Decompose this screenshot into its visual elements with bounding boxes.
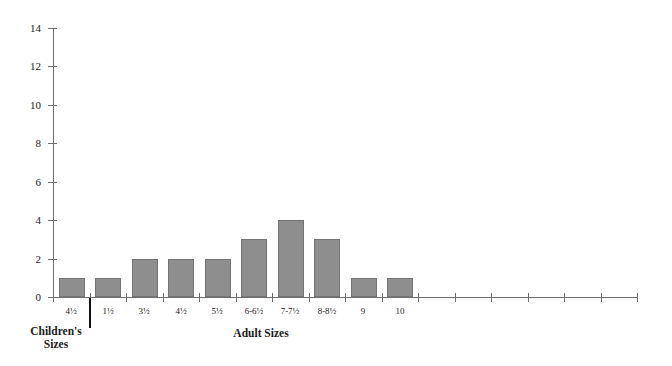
y-tick-14 — [48, 28, 57, 29]
x-category-label-10: 10 — [378, 306, 422, 316]
y-tick-label-4: 4 — [10, 214, 41, 226]
x-tick-2 — [126, 293, 127, 302]
x-tick-11 — [455, 293, 456, 302]
bar-1½ — [95, 278, 121, 297]
bar-7-7½ — [278, 220, 304, 297]
x-tick-9 — [382, 293, 383, 302]
y-tick-label-2: 2 — [10, 253, 41, 265]
x-tick-14 — [564, 293, 565, 302]
x-tick-4 — [199, 293, 200, 302]
y-tick-12 — [48, 66, 57, 67]
x-tick-5 — [236, 293, 237, 302]
x-tick-3 — [163, 293, 164, 302]
y-tick-label-6: 6 — [10, 176, 41, 188]
y-tick-8 — [48, 143, 57, 144]
y-axis-line — [53, 28, 54, 301]
x-tick-16 — [637, 293, 638, 302]
bar-5½ — [205, 259, 231, 297]
histogram-page: 02468101214 4½1½3½4½5½6-6½7-7½8-8½910 Ch… — [0, 0, 672, 366]
x-tick-0 — [53, 293, 54, 302]
children-adult-separator-line — [89, 298, 91, 328]
x-tick-13 — [528, 293, 529, 302]
bar-3½ — [132, 259, 158, 297]
y-tick-6 — [48, 182, 57, 183]
x-tick-8 — [345, 293, 346, 302]
y-tick-label-10: 10 — [10, 99, 41, 111]
bar-9 — [351, 278, 377, 297]
y-tick-2 — [48, 259, 57, 260]
bar-4½ — [168, 259, 194, 297]
bar-8-8½ — [314, 239, 340, 297]
bar-6-6½ — [241, 239, 267, 297]
x-tick-6 — [272, 293, 273, 302]
x-tick-15 — [601, 293, 602, 302]
y-tick-label-14: 14 — [10, 22, 41, 34]
bar-10 — [387, 278, 413, 297]
y-tick-10 — [48, 105, 57, 106]
x-tick-10 — [418, 293, 419, 302]
shoe-size-histogram: 02468101214 4½1½3½4½5½6-6½7-7½8-8½910 Ch… — [0, 0, 672, 366]
bar-4½ — [59, 278, 85, 297]
adult-sizes-group-label: Adult Sizes — [211, 327, 311, 340]
y-tick-4 — [48, 220, 57, 221]
y-tick-label-12: 12 — [10, 60, 41, 72]
x-tick-7 — [309, 293, 310, 302]
y-tick-label-8: 8 — [10, 137, 41, 149]
children-sizes-group-label: Children's Sizes — [24, 325, 88, 350]
y-tick-label-0: 0 — [10, 291, 41, 303]
x-tick-12 — [491, 293, 492, 302]
